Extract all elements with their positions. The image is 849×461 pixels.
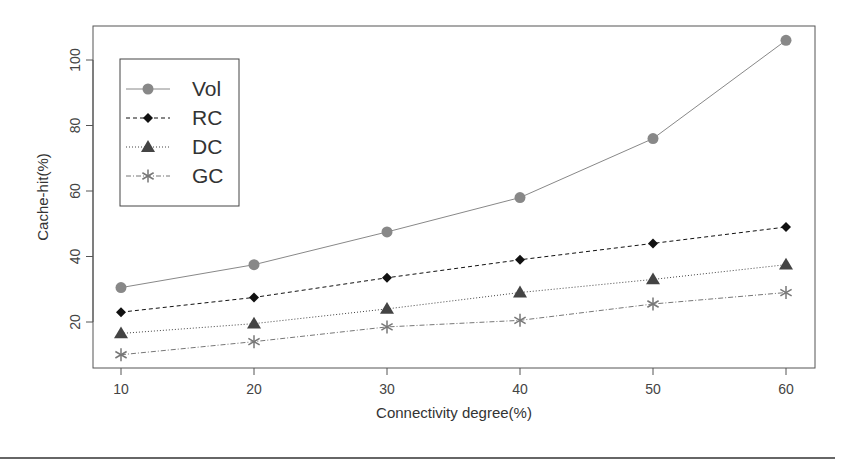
x-tick-label: 60 <box>778 381 794 397</box>
y-axis-label: Cache-hit(%) <box>34 153 51 241</box>
svg-text:DC: DC <box>192 135 222 158</box>
x-axis-label: Connectivity degree(%) <box>376 404 532 421</box>
y-axis: 20406080100 <box>67 48 93 330</box>
x-tick-label: 40 <box>512 381 528 397</box>
svg-text:GC: GC <box>192 164 224 187</box>
series-rc <box>116 222 791 317</box>
legend: VolRCDCGC <box>120 59 239 206</box>
x-tick-label: 20 <box>246 381 262 397</box>
x-tick-label: 30 <box>379 381 395 397</box>
y-tick-label: 60 <box>67 183 83 199</box>
x-tick-label: 50 <box>645 381 661 397</box>
series-dc <box>114 258 793 339</box>
series-gc <box>115 286 791 361</box>
y-tick-label: 20 <box>67 314 83 330</box>
svg-text:RC: RC <box>192 106 222 129</box>
y-tick-label: 40 <box>67 249 83 265</box>
y-tick-label: 100 <box>67 48 83 72</box>
svg-text:Vol: Vol <box>192 77 221 100</box>
line-chart: 20406080100 102030405060 Cache-hit(%) Co… <box>0 0 849 461</box>
x-tick-label: 10 <box>113 381 129 397</box>
x-axis: 102030405060 <box>113 368 794 397</box>
y-tick-label: 80 <box>67 118 83 134</box>
